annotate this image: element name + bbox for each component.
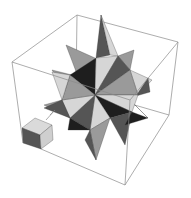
stellated-dodecahedron bbox=[44, 15, 152, 160]
polyhedron-render bbox=[0, 0, 191, 198]
figure bbox=[0, 0, 191, 198]
small-cube bbox=[22, 110, 55, 149]
